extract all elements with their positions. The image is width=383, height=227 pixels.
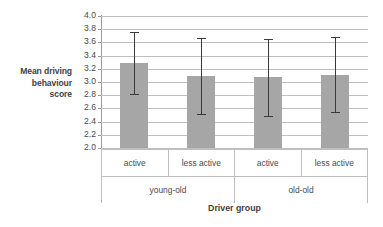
error-bar-line xyxy=(134,32,135,94)
y-axis-tickmark xyxy=(98,29,101,30)
gridline xyxy=(101,29,368,30)
y-axis-tickmark xyxy=(98,69,101,70)
y-axis-tickmark xyxy=(98,56,101,57)
y-axis-tickmark xyxy=(98,16,101,17)
error-bar-cap-upper xyxy=(264,39,273,40)
y-axis-tick-label: 2.0 xyxy=(72,142,96,152)
gridline xyxy=(101,16,368,17)
error-bar-line xyxy=(335,37,336,112)
error-bar-cap-upper xyxy=(331,37,340,38)
error-bar-cap-upper xyxy=(130,32,139,33)
x-axis-category-label: active xyxy=(235,150,302,176)
error-bar-cap-lower xyxy=(264,116,273,117)
y-axis-tickmark xyxy=(98,108,101,109)
y-axis-tick-label: 3.0 xyxy=(72,76,96,86)
y-axis-tick-label: 3.4 xyxy=(72,50,96,60)
error-bar-cap-lower xyxy=(130,94,139,95)
y-axis-tickmark xyxy=(98,82,101,83)
y-axis-tick-label: 3.6 xyxy=(72,36,96,46)
y-axis-tick-label: 2.8 xyxy=(72,89,96,99)
x-axis-category-row: activeless activeactiveless active xyxy=(101,150,368,176)
x-axis-category-table: activeless activeactiveless active young… xyxy=(101,149,368,202)
x-axis-category-label: less active xyxy=(302,150,369,176)
y-axis-tick-label: 2.4 xyxy=(72,116,96,126)
y-axis-tick-label: 2.6 xyxy=(72,102,96,112)
gridline xyxy=(101,56,368,57)
y-axis-tickmark xyxy=(98,135,101,136)
y-axis-tick-label: 3.2 xyxy=(72,63,96,73)
y-axis-title-line-2: behaviour xyxy=(0,78,72,90)
gridline xyxy=(101,42,368,43)
y-axis-tickmark xyxy=(98,95,101,96)
y-axis-tick-label: 3.8 xyxy=(72,23,96,33)
x-axis-title: Driver group xyxy=(101,203,368,213)
y-axis-tick-label: 4.0 xyxy=(72,10,96,20)
y-axis-tickmark xyxy=(98,122,101,123)
x-axis-group-label: old-old xyxy=(235,177,368,203)
error-bar-cap-upper xyxy=(197,38,206,39)
error-bar-line xyxy=(268,39,269,116)
y-axis-tickmark xyxy=(98,42,101,43)
plot-area xyxy=(101,16,368,148)
y-axis-tick-labels: 4.03.83.63.43.23.02.82.62.42.22.0 xyxy=(72,11,97,153)
x-axis-group-label: young-old xyxy=(101,177,235,203)
bar-chart: Mean driving behaviour score 4.03.83.63.… xyxy=(0,0,383,227)
x-axis-category-label: active xyxy=(101,150,169,176)
y-axis-tick-label: 2.2 xyxy=(72,129,96,139)
error-bar-cap-lower xyxy=(331,112,340,113)
x-axis-category-label: less active xyxy=(169,150,236,176)
error-bar-line xyxy=(201,38,202,114)
y-axis-title-line-1: Mean driving xyxy=(0,66,72,78)
x-axis-group-row: young-oldold-old xyxy=(101,176,368,203)
y-axis-title-line-3: score xyxy=(0,89,72,101)
error-bar-cap-lower xyxy=(197,114,206,115)
y-axis-title: Mean driving behaviour score xyxy=(0,66,72,101)
